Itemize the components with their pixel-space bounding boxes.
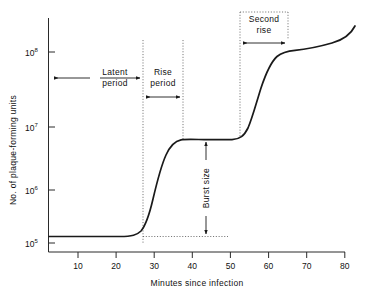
annotation-latent-period: Latent period (54, 67, 140, 88)
y-tick-label-1e6: 106 (25, 185, 38, 196)
guide-lines-group (143, 12, 288, 243)
x-tick-label-10: 10 (73, 261, 83, 271)
y-tick-label-1e8: 108 (25, 47, 38, 58)
annotation-burst-size: Burst size (201, 142, 211, 234)
latent-period-label-line2: period (102, 78, 127, 88)
annotation-second-rise: Second rise (243, 14, 285, 43)
latent-period-label-line1: Latent (102, 67, 128, 77)
x-tick-label-20: 20 (111, 261, 121, 271)
growth-curve-chart: 108 107 106 105 10 20 30 40 50 60 70 80 (0, 0, 366, 295)
y-axis-tick-labels: 108 107 106 105 (25, 47, 38, 249)
x-tick-label-40: 40 (188, 261, 198, 271)
x-axis-ticks (78, 252, 345, 258)
x-axis-tick-labels: 10 20 30 40 50 60 70 80 (73, 261, 350, 271)
rise-period-label-line1: Rise (154, 67, 172, 77)
x-tick-label-30: 30 (149, 261, 159, 271)
second-rise-label-line2: rise (257, 25, 272, 35)
x-tick-label-70: 70 (302, 261, 312, 271)
second-rise-label-line1: Second (249, 14, 280, 24)
rise-period-label-line2: period (150, 78, 175, 88)
x-tick-label-60: 60 (264, 261, 274, 271)
x-axis-title: Minutes since infection (151, 278, 244, 288)
annotation-rise-period: Rise period (146, 67, 180, 97)
burst-size-label: Burst size (201, 168, 211, 208)
y-tick-label-1e7: 107 (25, 122, 38, 133)
x-tick-label-50: 50 (226, 261, 236, 271)
y-axis-title: No. of plaque-forming units (8, 95, 18, 205)
x-tick-label-80: 80 (340, 261, 350, 271)
figure-container: 108 107 106 105 10 20 30 40 50 60 70 80 (0, 0, 366, 295)
y-tick-label-1e5: 105 (25, 238, 38, 249)
axes-group (49, 18, 346, 252)
y-axis-ticks (49, 52, 56, 243)
